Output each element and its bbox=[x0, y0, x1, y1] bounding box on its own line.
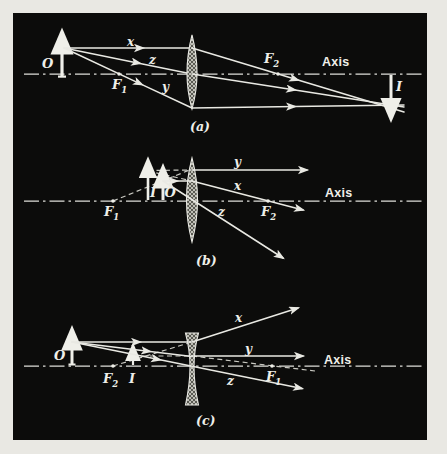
lens-diagram-svg: O x z y F1 F2 Axis I (a) I O bbox=[0, 0, 447, 454]
ray-y-label-b: y bbox=[233, 155, 242, 169]
object-label-b: O bbox=[165, 185, 177, 200]
ray-z-label-a: z bbox=[148, 53, 157, 67]
ray-x-label-b: x bbox=[233, 179, 242, 193]
figure-page: O x z y F1 F2 Axis I (a) I O bbox=[0, 0, 447, 454]
ray-x-label-a: x bbox=[126, 35, 135, 49]
focal-point-f2-b bbox=[266, 199, 270, 203]
panel-caption-c: (c) bbox=[196, 413, 216, 428]
object-label-c: O bbox=[54, 348, 66, 363]
panel-caption-b: (b) bbox=[196, 253, 217, 268]
axis-label-b: Axis bbox=[325, 186, 353, 200]
figure-background bbox=[13, 13, 427, 440]
axis-label-c: Axis bbox=[324, 353, 352, 367]
ray-y-label-c: y bbox=[244, 342, 253, 356]
focal-point-f1-b bbox=[111, 199, 115, 203]
object-label-a: O bbox=[42, 56, 54, 71]
focal-point-f1-a bbox=[117, 72, 120, 75]
focal-point-f2-c bbox=[111, 364, 115, 368]
image-label-a: I bbox=[395, 79, 403, 94]
axis-label-a: Axis bbox=[322, 55, 350, 69]
image-label-b: I bbox=[149, 185, 157, 200]
panel-caption-a: (a) bbox=[190, 119, 210, 134]
focal-point-f2-a bbox=[276, 72, 279, 75]
ray-z-label-b: z bbox=[217, 205, 226, 219]
image-label-c: I bbox=[128, 371, 136, 386]
ray-x-label-c: x bbox=[234, 311, 243, 325]
ray-z-label-c: z bbox=[226, 374, 235, 388]
ray-y-label-a: y bbox=[161, 80, 170, 94]
focal-point-f1-c bbox=[270, 364, 274, 368]
